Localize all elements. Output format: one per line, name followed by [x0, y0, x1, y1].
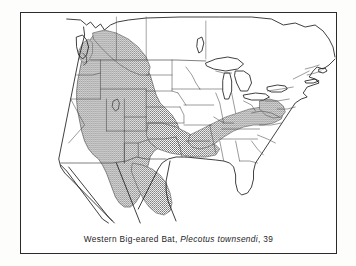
- baja-california: [61, 165, 109, 223]
- border-sc-nc: [257, 135, 275, 143]
- border-ks-mo: [180, 107, 184, 123]
- border-in-oh: [232, 93, 236, 113]
- map-svg: [21, 13, 336, 224]
- lake-huron: [235, 71, 252, 91]
- border-ne-ia: [178, 93, 186, 105]
- border-fl-ga: [240, 161, 258, 163]
- hudson-bay-inlet: [197, 37, 204, 53]
- caption-plate-number: , 39: [258, 234, 273, 244]
- lake-superior: [206, 57, 244, 71]
- distribution-map-panel: [21, 13, 336, 224]
- figure-root: Western Big-eared Bat, Plecotus townsend…: [0, 0, 356, 266]
- lake-michigan: [223, 73, 232, 99]
- species-range-overlay: [77, 30, 286, 215]
- caption-bar: Western Big-eared Bat, Plecotus townsend…: [21, 224, 336, 253]
- cape-cod: [319, 68, 327, 73]
- border-new-england-2: [307, 71, 321, 75]
- border-pa-ny: [267, 87, 293, 91]
- caption-common-name: Western Big-eared Bat,: [84, 234, 178, 244]
- figure-caption: Western Big-eared Bat, Plecotus townsend…: [84, 234, 274, 244]
- plate-frame: Western Big-eared Bat, Plecotus townsend…: [20, 12, 337, 254]
- caption-scientific-name: Plecotus townsendi: [180, 234, 258, 244]
- lake-erie: [244, 93, 270, 100]
- border-ga-sc: [252, 141, 264, 155]
- border-mn-wi: [186, 67, 200, 89]
- border-ny-ne: [293, 71, 309, 79]
- border-al-ga: [236, 141, 240, 161]
- border-ms-al: [220, 141, 224, 161]
